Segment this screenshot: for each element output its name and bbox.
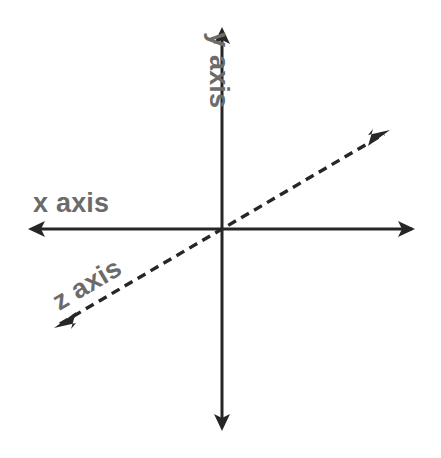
y-axis-label: y axis	[205, 32, 232, 108]
z-axis-lower-left-arrowhead-icon	[54, 312, 76, 329]
z-axis-upper-right-arrowhead-icon	[368, 129, 390, 146]
coordinate-axes-diagram: x axis y axis z axis	[0, 0, 441, 458]
x-axis-label: x axis	[33, 190, 109, 217]
